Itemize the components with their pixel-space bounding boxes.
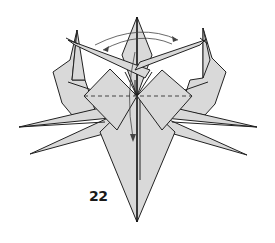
top-point [122, 17, 152, 96]
origami-diagram: 22 [0, 0, 275, 243]
diagram-canvas [0, 0, 275, 243]
step-number: 22 [89, 188, 107, 204]
